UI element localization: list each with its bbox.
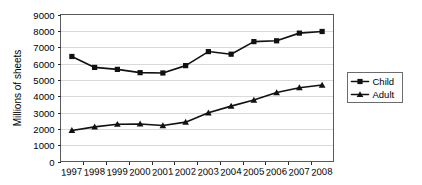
data-point-child-2005 bbox=[251, 39, 256, 44]
y-tick-label: 7000 bbox=[33, 42, 54, 53]
x-tick-label: 2006 bbox=[265, 165, 287, 177]
x-tick-label: 2002 bbox=[174, 165, 196, 177]
data-point-child-2000 bbox=[138, 70, 143, 75]
x-tick-label: 1997 bbox=[61, 165, 83, 177]
x-tick-label: 2004 bbox=[220, 165, 242, 177]
legend-label-child: Child bbox=[373, 76, 395, 87]
series-child bbox=[69, 29, 324, 76]
y-tick-label: 4000 bbox=[33, 91, 54, 102]
series-line-adult bbox=[72, 85, 322, 130]
y-tick-label: 5000 bbox=[33, 75, 54, 86]
y-tick-label: 0 bbox=[49, 157, 54, 168]
x-tick-label: 1998 bbox=[83, 165, 105, 177]
x-tick-label: 2001 bbox=[152, 165, 174, 177]
data-point-child-2007 bbox=[297, 31, 302, 36]
data-point-child-1999 bbox=[115, 67, 120, 72]
x-tick-label: 2005 bbox=[243, 165, 265, 177]
data-point-child-2004 bbox=[229, 52, 234, 57]
x-axis-tick-labels: 1997199819992000200120022003200420052006… bbox=[61, 165, 333, 177]
data-point-child-2002 bbox=[183, 63, 188, 68]
data-point-child-2001 bbox=[160, 70, 165, 75]
x-tick-label: 2003 bbox=[197, 165, 219, 177]
legend-label-adult: Adult bbox=[373, 89, 395, 100]
data-point-child-2008 bbox=[320, 29, 325, 34]
x-tick-label: 2008 bbox=[311, 165, 333, 177]
x-tick-label: 2000 bbox=[129, 165, 151, 177]
series-adult bbox=[69, 82, 326, 133]
data-point-child-1998 bbox=[92, 65, 97, 70]
legend-marker-child bbox=[357, 79, 362, 84]
y-tick-label: 1000 bbox=[33, 140, 54, 151]
y-tick-label: 3000 bbox=[33, 108, 54, 119]
chart-container: 0100020003000400050006000700080009000 19… bbox=[0, 0, 422, 185]
y-tick-label: 6000 bbox=[33, 59, 54, 70]
y-tick-label: 9000 bbox=[33, 10, 54, 21]
x-tick-label: 1999 bbox=[106, 165, 128, 177]
y-tick-label: 2000 bbox=[33, 124, 54, 135]
y-axis-title: Millions of sheets bbox=[12, 50, 23, 127]
plot-area-border bbox=[61, 15, 334, 162]
y-axis-tick-labels: 0100020003000400050006000700080009000 bbox=[33, 10, 54, 168]
chart-legend: ChildAdult bbox=[348, 73, 403, 103]
series-line-child bbox=[72, 31, 322, 72]
line-chart: 0100020003000400050006000700080009000 19… bbox=[0, 0, 422, 185]
x-tick-label: 2007 bbox=[288, 165, 310, 177]
data-point-child-2006 bbox=[274, 38, 279, 43]
data-point-child-2003 bbox=[206, 49, 211, 54]
data-point-child-1997 bbox=[69, 54, 74, 59]
y-tick-label: 8000 bbox=[33, 26, 54, 37]
